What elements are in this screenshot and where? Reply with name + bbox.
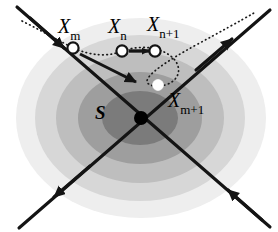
label-x-m-base: X	[58, 15, 70, 37]
marker-x-n-plus-1	[149, 45, 160, 56]
saddle-fixed-point	[134, 111, 148, 125]
label-x-n: Xn	[108, 16, 127, 39]
saddle-point-figure: Xm Xn Xn+1 Xm+1 S	[0, 0, 278, 232]
label-x-n-sub: n	[120, 28, 127, 43]
label-x-m-plus-1: Xm+1	[168, 90, 204, 113]
label-x-n-base: X	[108, 15, 120, 37]
label-x-n-plus-1: Xn+1	[147, 14, 180, 37]
label-x-n-plus-1-base: X	[147, 13, 159, 35]
figure-canvas	[0, 0, 278, 232]
marker-x-m-plus-1	[153, 80, 164, 91]
label-x-m: Xm	[58, 16, 80, 39]
label-x-m-plus-1-base: X	[168, 89, 180, 111]
label-region-s: S	[95, 103, 106, 122]
marker-x-n	[116, 45, 127, 56]
stable-arrow-se	[228, 190, 262, 220]
label-x-n-plus-1-sub: n+1	[159, 26, 179, 41]
label-x-m-sub: m	[70, 28, 80, 43]
label-x-m-plus-1-sub: m+1	[180, 102, 204, 117]
marker-x-m	[67, 42, 78, 53]
